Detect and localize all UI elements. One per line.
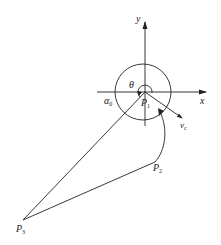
p1-label: P1 [140,97,150,109]
velocity-vector [145,92,182,118]
p2-label: P2 [152,162,162,174]
segment-p2-p3 [23,162,155,220]
curve-to-p2 [155,112,165,162]
theta-label: θ [129,79,134,90]
trajectory-diagram: y x θ α0 P1 vc P2 P3 [0,0,221,245]
vc-label: vc [180,120,187,131]
segment-p1-p3 [23,92,145,220]
x-axis-label: x [199,95,205,106]
p3-label: P3 [15,223,25,235]
alpha0-label: α0 [104,95,112,107]
y-axis-label: y [135,13,141,24]
